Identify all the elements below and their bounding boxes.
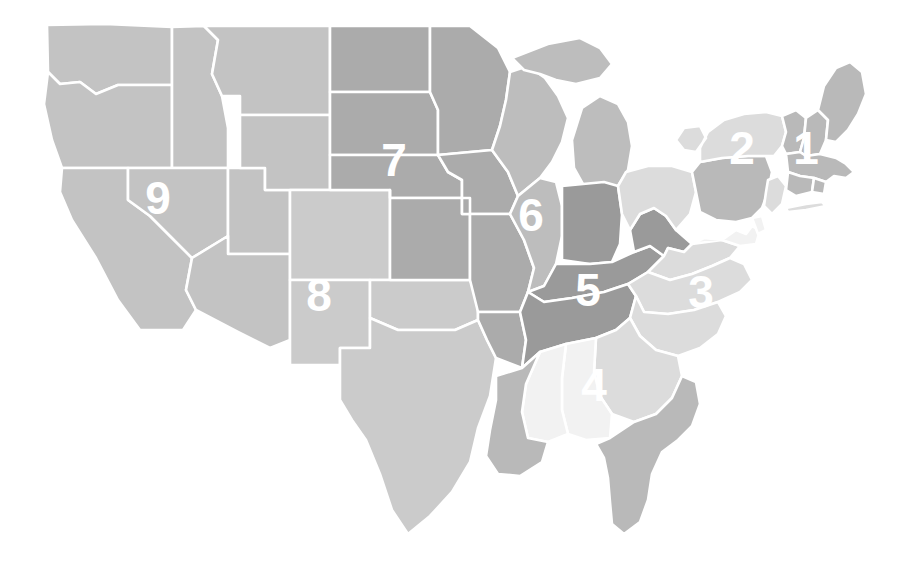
division-label-6: 6	[518, 189, 544, 241]
state-ND[interactable]	[330, 26, 430, 92]
division-label-9: 9	[145, 172, 171, 224]
division-label-2: 2	[729, 122, 755, 174]
state-KS[interactable]	[390, 190, 470, 280]
division-label-1: 1	[793, 122, 819, 174]
us-census-division-map: 1 2 3 4 5 6 7 8 9	[0, 0, 913, 568]
state-IN[interactable]	[562, 182, 622, 264]
state-OK[interactable]	[370, 280, 478, 330]
division-label-3: 3	[688, 266, 714, 318]
state-RI[interactable]	[812, 178, 826, 194]
division-label-5: 5	[575, 264, 601, 316]
state-CO[interactable]	[290, 190, 390, 280]
division-label-7: 7	[381, 134, 407, 186]
division-label-8: 8	[306, 269, 332, 321]
us-map-svg: 1 2 3 4 5 6 7 8 9	[0, 0, 913, 568]
division-label-4: 4	[581, 359, 607, 411]
